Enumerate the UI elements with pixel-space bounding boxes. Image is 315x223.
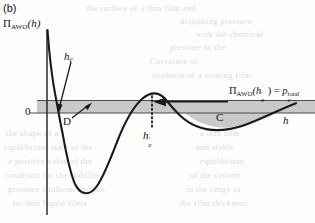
figure-container: the surface of a thin film anddisjoining… bbox=[0, 0, 315, 223]
panel-letter: (b) bbox=[3, 2, 16, 14]
equation-rhs-subscript: c bbox=[288, 96, 291, 103]
he-label: he bbox=[64, 50, 73, 62]
x-axis-label: h bbox=[283, 114, 289, 126]
equation-arg-close: ) bbox=[268, 85, 272, 96]
y-axis-label-pi: Π bbox=[3, 17, 11, 29]
disjoining-pressure-plot bbox=[0, 0, 315, 223]
region-c-label: C bbox=[216, 111, 223, 123]
region-c-shaded-lobe bbox=[167, 101, 297, 128]
y-axis-label-argument: (h) bbox=[27, 17, 40, 29]
level-line-equation: ΠAWO(h′e) = ptotalc bbox=[229, 85, 294, 97]
equation-pi: Π bbox=[229, 85, 237, 96]
equation-equals: = bbox=[274, 85, 280, 96]
he-label-subscript: e bbox=[70, 56, 73, 64]
equation-pi-subscript: AWO bbox=[237, 90, 253, 97]
he-prime-subscript: e bbox=[149, 141, 152, 148]
y-axis-label: ΠAWO(h) bbox=[3, 17, 40, 31]
equation-arg-open: (h bbox=[252, 85, 261, 96]
equation-arg-subscript: e bbox=[261, 96, 264, 103]
zero-tick-label: 0 bbox=[25, 105, 31, 117]
region-d-label: D bbox=[63, 115, 71, 127]
y-axis-label-subscript: AWO bbox=[11, 23, 28, 31]
he-prime-label: h′e bbox=[143, 129, 155, 141]
